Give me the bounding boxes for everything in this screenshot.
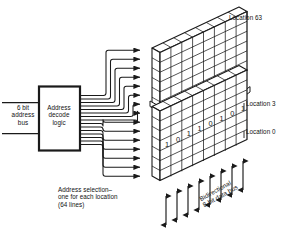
bit-cell-1: 0 (176, 135, 180, 144)
bit-cell-6: 0 (230, 109, 234, 118)
diagram-canvas: 1 0 1 1 0 1 0 1 6 bitaddressbus Addressd… (0, 0, 299, 239)
address-select-lines (80, 50, 140, 176)
location-63-label: Location 63 (229, 14, 262, 21)
location-3-label: Location 3 (246, 100, 276, 107)
bit-cell-7: 1 (241, 104, 245, 113)
address-decode-logic-label: Addressdecodelogic (40, 104, 78, 126)
address-selection-caption: Address selection–one for each location(… (58, 186, 168, 208)
decoder-line-2: decode (49, 111, 70, 118)
location-0-label: Location 0 (246, 128, 276, 135)
bit-cell-4: 0 (209, 119, 213, 128)
bit-cell-0: 1 (165, 140, 169, 149)
bit-cell-3: 1 (198, 124, 202, 133)
address-selection-line-2: one for each location (58, 193, 118, 200)
bit-cell-2: 1 (187, 129, 191, 138)
decoder-line-3: logic (52, 119, 65, 126)
address-bus-line-2: address (12, 111, 35, 118)
bit-cell-5: 1 (219, 114, 223, 123)
address-bus-line-3: bus (18, 119, 28, 126)
address-bus-label: 6 bitaddressbus (6, 104, 40, 126)
address-selection-line-3: (64 lines) (58, 201, 84, 208)
decoder-line-1: Address (47, 104, 70, 111)
address-selection-line-1: Address selection– (58, 186, 112, 193)
memory-array (150, 7, 250, 181)
address-bus-line-1: 6 bit (17, 104, 29, 111)
